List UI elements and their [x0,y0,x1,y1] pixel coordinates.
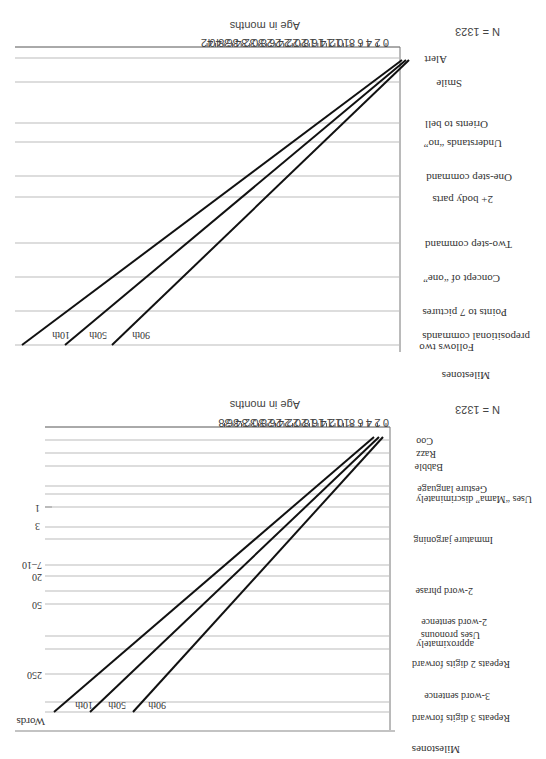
row-label: approximately [416,639,474,650]
figure-page: 024681012141618202224262830323436384042 … [0,0,546,759]
row-label: Immature jargoning [413,535,493,546]
line-label-50th: 50th [89,330,107,341]
top-xlabel: Age in months [229,20,300,32]
top-ylabel: Milestones [442,370,490,382]
line-label-10th: 10th [52,330,70,341]
bottom-n-label: N = 1323 [455,404,500,416]
tick-label: 38 [218,417,230,429]
row-label: Smile [436,78,462,90]
row-label: Two-step command [425,239,512,251]
line-50th [90,437,379,712]
chart-svg: 024681012141618202224262830323436384042 … [0,0,546,759]
tick-label: 2 [374,417,380,429]
top-n-label: N = 1323 [455,26,500,38]
word-count: 3 [35,521,40,532]
tick-label: 2 [374,37,380,49]
row-label: 2+ body parts [432,194,493,206]
row-label: Babble [414,462,443,473]
row-label: Alert [424,54,447,66]
line-50th [65,60,406,345]
line-label-10th: 10th [75,700,93,711]
tick-label: 6 [357,417,363,429]
row-label: One-step command [426,172,512,184]
row-label: 3-word sentence [424,691,490,702]
bottom-grid [45,440,390,712]
row-label: Understands “no” [423,138,502,150]
line-10th [54,437,374,712]
line-10th [22,60,402,345]
bottom-x-ticks: 02468101214161820222426283032343638 [218,417,389,429]
row-label: Concept of “one” [423,273,500,285]
word-count: 20 [32,572,42,583]
row-label: Uses “Mama” discriminately [416,494,532,505]
tick-label: 0 [383,417,389,429]
word-count: 7–10 [22,560,42,571]
bottom-xlabel: Age in months [229,399,300,411]
line-90th [133,437,383,712]
row-label: Repeats 3 digits forward [412,713,510,724]
line-label-90th: 90th [132,330,150,341]
row-label: Gesture language [417,484,487,495]
bottom-chart: 02468101214161820222426283032343638 [15,417,395,731]
row-label: 2-word sentence [421,617,487,628]
tick-label: 42 [201,37,213,49]
tick-label: 4 [366,37,372,49]
top-chart: 024681012141618202224262830323436384042 [15,37,409,352]
word-count: 50 [32,600,42,611]
word-count: 1 [35,503,40,514]
words-label: Words [17,716,45,728]
top-text: N = 1323 Age in months Milestones Alert … [52,20,530,382]
bottom-percentile-lines [54,437,383,712]
row-label: Repeats 2 digits forward [412,659,510,670]
line-label-50th: 50th [108,700,126,711]
row-label: prepositional commands [422,331,530,343]
row-label: Orients to bell [425,119,488,131]
tick-label: 6 [357,37,363,49]
row-label: Coo [416,436,433,447]
word-count: 250 [27,670,42,681]
top-percentile-lines [22,60,409,345]
top-x-ticks: 024681012141618202224262830323436384042 [201,37,389,49]
top-grid [15,58,400,345]
tick-label: 0 [383,37,389,49]
tick-label: 4 [366,417,372,429]
bottom-ylabel: Milestones [412,744,460,756]
line-label-90th: 90th [148,700,166,711]
row-label: Razz [415,449,436,460]
row-label: 2-word phrase [415,586,473,597]
row-label: Points to 7 pictures [422,307,507,319]
line-90th [112,60,409,345]
